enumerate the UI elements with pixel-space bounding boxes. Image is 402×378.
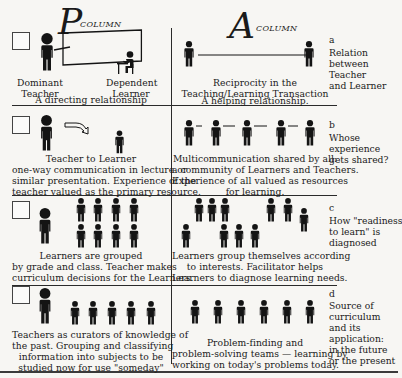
problem-solving-team	[190, 300, 320, 326]
teacher-figure	[40, 115, 54, 151]
row-c-side-label: c How "readiness to learn" is diagnosed	[329, 202, 402, 248]
dependent-learner-seated-figure	[115, 51, 137, 75]
graded-learner-grid	[75, 198, 145, 250]
multicommunication-figures	[178, 120, 318, 148]
row-a-key: a	[329, 34, 386, 45]
row-a-a-subcaption: A helping relationship.	[172, 95, 338, 106]
row-c-checkbox[interactable]	[12, 201, 30, 219]
row-b-key: b	[329, 119, 388, 130]
row-c-p-caption: Learners are grouped by grade and class.…	[12, 250, 170, 283]
teacher-figure	[38, 208, 52, 244]
row-a-checkbox[interactable]	[12, 32, 30, 50]
row-c-a-caption: Learners group themselves according to i…	[172, 250, 338, 283]
curator-teacher-figure	[38, 288, 52, 324]
passive-learner-row	[68, 301, 158, 327]
row-a-side-label: a Relation between Teacher and Learner	[329, 34, 386, 91]
reciprocity-line	[198, 54, 308, 56]
a-column-label: COLUMN	[256, 24, 297, 33]
row-a-p-caption: A directing relationship	[12, 94, 170, 105]
row-d-key: d	[329, 288, 395, 299]
row-b-a-caption: Multicommunication shared by all: a comm…	[172, 153, 338, 197]
row-d-checkbox[interactable]	[12, 286, 30, 304]
learner-figure	[115, 130, 125, 154]
row-d-a-caption: Problem-finding and problem-solving team…	[172, 337, 338, 370]
row-d-p-caption: Teachers as curators of knowledge of the…	[12, 329, 170, 373]
row-b-checkbox[interactable]	[12, 116, 30, 134]
row-divider-c	[12, 285, 337, 286]
reciprocity-teacher-figure	[184, 41, 194, 67]
one-way-arrow-icon	[64, 121, 90, 135]
row-b-side-label: b Whose experience gets shared?	[329, 119, 388, 165]
row-c-key: c	[329, 202, 402, 213]
reciprocity-learner-figure	[304, 41, 314, 67]
a-column-letter: A	[229, 8, 255, 44]
row-b-p-caption: Teacher to Learner one-way communication…	[12, 153, 170, 197]
self-grouped-learners	[178, 198, 318, 250]
row-d-side-label: d Source of curriculum and its applicati…	[329, 288, 395, 366]
